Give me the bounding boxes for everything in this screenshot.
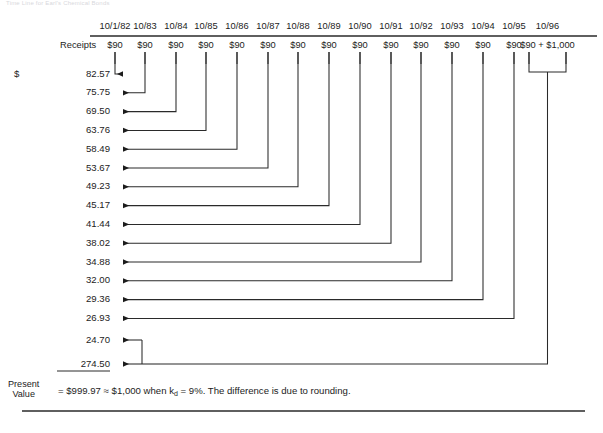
present-value-7: 45.17 — [8, 199, 110, 210]
cash-flow-path-4 — [123, 52, 237, 149]
date-label-10-85: 10/85 — [194, 21, 217, 31]
formula-suffix: = 9%. The difference is due to rounding. — [178, 385, 351, 396]
present-value-2: 69.50 — [8, 105, 110, 116]
cash-flow-path-13 — [123, 52, 514, 318]
final-period-bracket — [529, 52, 566, 72]
receipt-amount-10: $90 — [413, 40, 429, 50]
cash-flow-connector-lines — [115, 52, 566, 364]
cash-flow-path-3 — [123, 52, 206, 130]
formula-subscript: d — [174, 390, 178, 397]
cash-flow-path-11 — [123, 52, 452, 281]
receipt-amount-14: $90 + $1,000 — [520, 40, 575, 50]
receipt-amount-12: $90 — [475, 40, 491, 50]
date-label-10-86: 10/86 — [225, 21, 248, 31]
receipt-amount-5: $90 — [260, 40, 276, 50]
present-value-label-line2: Value — [12, 389, 35, 399]
time-line-diagram: Time Line for Earl's Chemical Bonds 10/1… — [0, 0, 603, 433]
cash-flow-path-2 — [123, 52, 176, 112]
cash-flow-path-9 — [123, 52, 391, 243]
date-label-10-88: 10/88 — [286, 21, 309, 31]
date-label-10-89: 10/89 — [317, 21, 340, 31]
receipt-amount-6: $90 — [290, 40, 306, 50]
receipt-amount-8: $90 — [352, 40, 368, 50]
present-value-8: 41.44 — [8, 218, 110, 229]
currency-prefix: $ — [14, 68, 19, 79]
date-label-10-95: 10/95 — [502, 21, 525, 31]
receipts-row-label: Receipts — [60, 40, 96, 50]
date-label-10-84: 10/84 — [164, 21, 187, 31]
receipt-amount-1: $90 — [137, 40, 153, 50]
receipt-amount-9: $90 — [383, 40, 399, 50]
receipt-amount-0: $90 — [107, 40, 123, 50]
present-value-formula: = $999.97 ≈ $1,000 when kd = 9%. The dif… — [58, 385, 351, 396]
present-value-label-line1: Present — [8, 379, 39, 389]
present-value-13: 26.93 — [8, 312, 110, 323]
receipt-amount-4: $90 — [229, 40, 245, 50]
date-label-10-1-82: 10/1/82 — [99, 21, 130, 31]
date-label-10-83: 10/83 — [133, 21, 156, 31]
present-value-6: 49.23 — [8, 180, 110, 191]
cash-flow-path-8 — [123, 52, 360, 224]
present-value-0: 82.57 — [8, 68, 110, 79]
present-value-1: 75.75 — [8, 86, 110, 97]
present-value-5: 53.67 — [8, 162, 110, 173]
present-value-15: 274.50 — [8, 358, 110, 369]
date-label-10-91: 10/91 — [379, 21, 402, 31]
receipt-amount-11: $90 — [444, 40, 460, 50]
receipt-amount-2: $90 — [168, 40, 184, 50]
formula-prefix: = $999.97 ≈ $1,000 when k — [58, 385, 174, 396]
cash-flow-path-6 — [123, 52, 298, 187]
date-label-10-96: 10/96 — [536, 21, 559, 31]
date-label-10-90: 10/90 — [348, 21, 371, 31]
present-value-12: 29.36 — [8, 293, 110, 304]
present-value-label: Present Value — [8, 379, 39, 399]
date-label-10-92: 10/92 — [409, 21, 432, 31]
present-value-11: 32.00 — [8, 274, 110, 285]
receipt-amount-7: $90 — [321, 40, 337, 50]
present-value-9: 38.02 — [8, 237, 110, 248]
present-value-3: 63.76 — [8, 124, 110, 135]
present-value-10: 34.88 — [8, 256, 110, 267]
final-period-drop — [160, 72, 548, 364]
cash-flow-path-1 — [123, 52, 145, 93]
date-label-10-93: 10/93 — [440, 21, 463, 31]
present-value-14: 24.70 — [8, 334, 110, 345]
cash-flow-path-10 — [123, 52, 421, 262]
date-label-10-87: 10/87 — [256, 21, 279, 31]
present-value-4: 58.49 — [8, 143, 110, 154]
cash-flow-path-0 — [115, 52, 123, 74]
date-label-10-94: 10/94 — [471, 21, 494, 31]
receipt-amount-3: $90 — [198, 40, 214, 50]
